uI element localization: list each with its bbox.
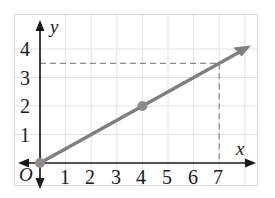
x-tick-label-2: 2: [85, 167, 95, 187]
origin-label: O: [19, 165, 33, 184]
x-axis-right-arrow-icon: [245, 159, 256, 168]
y-tick-label-3: 3: [20, 68, 30, 88]
x-tick-label-6: 6: [188, 167, 198, 187]
x-tick-label-1: 1: [60, 167, 70, 187]
y-axis-down-arrow-icon: [36, 178, 45, 189]
y-axis-label: y: [50, 17, 58, 36]
x-axis-label: x: [236, 139, 244, 158]
y-axis-up-arrow-icon: [36, 20, 45, 31]
y-tick-label-4: 4: [20, 39, 30, 59]
marked-point: [137, 101, 147, 111]
y-tick-label-2: 2: [20, 96, 30, 116]
y-tick-label-1: 1: [20, 125, 30, 145]
x-tick-label-4: 4: [136, 167, 146, 187]
graph-screenshot: 4 3 2 1 1 2 3 4 5 6 7 y x O: [0, 0, 275, 198]
x-tick-label-7: 7: [213, 167, 223, 187]
x-tick-label-3: 3: [111, 167, 121, 187]
origin-point: [35, 158, 45, 168]
x-tick-label-5: 5: [162, 167, 172, 187]
